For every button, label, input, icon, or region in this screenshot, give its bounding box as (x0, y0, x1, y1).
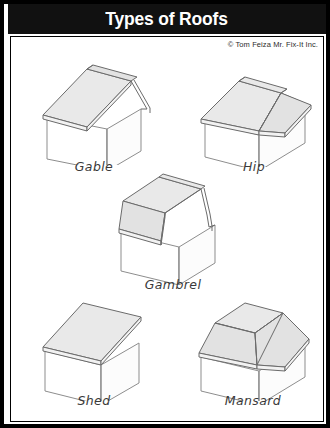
gambrel-roof-drawing (103, 165, 243, 285)
roof-figure-hip: Hip (189, 59, 319, 167)
title-bar: Types of Roofs (8, 4, 326, 34)
copyright-credit: © Tom Feiza Mr. Fix-It Inc. (228, 40, 318, 49)
roof-figure-shed: Shed (29, 289, 159, 401)
roof-figure-gable: Gable (29, 55, 159, 165)
illustration-panel: © Tom Feiza Mr. Fix-It Inc. (10, 36, 324, 422)
shed-roof-drawing (29, 289, 159, 401)
roof-figure-gambrel: Gambrel (103, 165, 243, 285)
caption-mansard: Mansard (187, 393, 319, 408)
hip-roof-drawing (189, 59, 319, 167)
roof-types-figure: Types of Roofs © Tom Feiza Mr. Fix-It In… (0, 0, 330, 428)
page-title: Types of Roofs (106, 8, 228, 30)
roof-figure-mansard: Mansard (187, 289, 319, 401)
mansard-roof-drawing (187, 289, 319, 401)
gable-roof-drawing (29, 55, 159, 165)
caption-shed: Shed (29, 393, 159, 408)
